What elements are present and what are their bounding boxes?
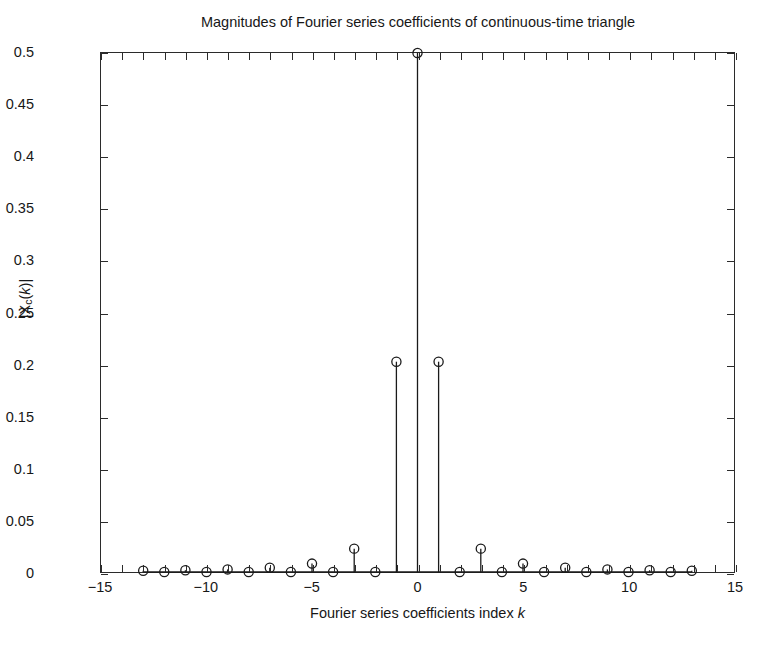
- x-tick-15: [736, 565, 737, 572]
- x-tick--8-top: [249, 53, 250, 60]
- x-tick--15: [101, 565, 102, 572]
- x-tick-4: [503, 565, 504, 572]
- x-tick-11-top: [651, 53, 652, 60]
- x-tick-label-4: 5: [519, 579, 527, 595]
- x-tick--8: [249, 565, 250, 572]
- x-tick--7: [270, 565, 271, 572]
- x-tick--4-top: [334, 53, 335, 60]
- x-tick-10-top: [630, 53, 631, 60]
- x-tick-6-top: [546, 53, 547, 60]
- figure-canvas: Magnitudes of Fourier series coefficient…: [0, 0, 776, 655]
- x-tick--3: [355, 565, 356, 572]
- x-tick-label-0: −15: [88, 579, 113, 595]
- x-tick--11-top: [186, 53, 187, 60]
- x-tick-label-2: −5: [303, 579, 320, 595]
- x-tick--10: [207, 565, 208, 572]
- y-tick-10-right: [727, 53, 734, 54]
- x-tick-2-top: [461, 53, 462, 60]
- x-tick-0: [419, 565, 420, 572]
- y-tick-10: [101, 53, 108, 54]
- x-tick--15-top: [101, 53, 102, 60]
- x-tick--1-top: [397, 53, 398, 60]
- x-tick--6-top: [292, 53, 293, 60]
- x-tick--6: [292, 565, 293, 572]
- x-tick--1: [397, 565, 398, 572]
- x-tick-3-top: [482, 53, 483, 60]
- x-tick--14-top: [122, 53, 123, 60]
- y-tick-8-right: [727, 157, 734, 158]
- y-tick-6: [101, 261, 108, 262]
- x-axis-label-variable: k: [518, 605, 525, 621]
- y-tick-3-right: [727, 418, 734, 419]
- x-tick-14: [715, 565, 716, 572]
- x-tick-14-top: [715, 53, 716, 60]
- y-tick-9: [101, 105, 108, 106]
- x-tick--9: [228, 565, 229, 572]
- x-tick-2: [461, 565, 462, 572]
- x-tick-8: [588, 565, 589, 572]
- x-tick--13-top: [143, 53, 144, 60]
- y-tick-9-right: [727, 105, 734, 106]
- y-tick-label-3: 0.15: [6, 409, 34, 425]
- x-tick-0-top: [419, 53, 420, 60]
- y-tick-label-7: 0.35: [6, 200, 34, 216]
- x-tick-10: [630, 565, 631, 572]
- stem-plot-data-area: [101, 53, 734, 572]
- plot-axes-box: [100, 52, 735, 573]
- y-axis-label: |Xc(k)|: [17, 229, 34, 369]
- y-tick-label-0: 0: [26, 565, 34, 581]
- x-tick--11: [186, 565, 187, 572]
- x-tick-9-top: [609, 53, 610, 60]
- y-tick-2-right: [727, 470, 734, 471]
- y-tick-4-right: [727, 366, 734, 367]
- y-tick-1-right: [727, 522, 734, 523]
- x-tick-11: [651, 565, 652, 572]
- y-tick-0: [101, 574, 108, 575]
- x-tick--4: [334, 565, 335, 572]
- y-tick-2: [101, 470, 108, 471]
- y-tick-label-2: 0.1: [14, 461, 34, 477]
- x-tick-13-top: [694, 53, 695, 60]
- y-tick-0-right: [727, 574, 734, 575]
- x-tick-3: [482, 565, 483, 572]
- x-tick--2: [376, 565, 377, 572]
- x-tick--14: [122, 565, 123, 572]
- x-axis-label: Fourier series coefficients index k: [100, 605, 735, 621]
- x-tick--13: [143, 565, 144, 572]
- x-tick--7-top: [270, 53, 271, 60]
- x-tick--5: [313, 565, 314, 572]
- x-tick-5-top: [524, 53, 525, 60]
- y-axis-label-variable: k: [17, 287, 33, 294]
- x-tick--5-top: [313, 53, 314, 60]
- y-axis-label-subscript: c: [22, 300, 34, 305]
- y-tick-8: [101, 157, 108, 158]
- x-tick-7: [567, 565, 568, 572]
- y-tick-5: [101, 314, 108, 315]
- y-tick-label-1: 0.05: [6, 513, 34, 529]
- x-tick--12-top: [165, 53, 166, 60]
- x-tick--2-top: [376, 53, 377, 60]
- x-tick-12-top: [673, 53, 674, 60]
- x-tick-label-1: −10: [194, 579, 219, 595]
- y-tick-4: [101, 366, 108, 367]
- y-tick-5-right: [727, 314, 734, 315]
- y-tick-label-9: 0.45: [6, 96, 34, 112]
- x-tick-label-5: 10: [621, 579, 637, 595]
- y-tick-7-right: [727, 209, 734, 210]
- y-tick-label-10: 0.5: [14, 44, 34, 60]
- y-tick-6-right: [727, 261, 734, 262]
- x-tick--10-top: [207, 53, 208, 60]
- y-tick-3: [101, 418, 108, 419]
- x-tick-1-top: [440, 53, 441, 60]
- x-tick-label-3: 0: [413, 579, 421, 595]
- x-tick-15-top: [736, 53, 737, 60]
- x-tick--3-top: [355, 53, 356, 60]
- x-tick-1: [440, 565, 441, 572]
- x-tick-7-top: [567, 53, 568, 60]
- x-tick-label-6: 15: [727, 579, 743, 595]
- x-tick-9: [609, 565, 610, 572]
- x-tick-8-top: [588, 53, 589, 60]
- x-tick--12: [165, 565, 166, 572]
- chart-title: Magnitudes of Fourier series coefficient…: [100, 14, 736, 30]
- y-tick-7: [101, 209, 108, 210]
